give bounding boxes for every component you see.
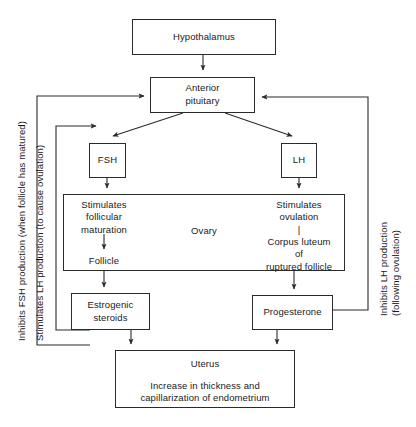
node-uterus-description: Increase in thickness and capillarizatio… — [120, 380, 290, 405]
ovary-ovulation-text: Stimulates ovulation | Corpus luteum of … — [255, 199, 343, 273]
node-lh-label: LH — [293, 154, 305, 167]
flowchart-canvas: Hypothalamus Anterior pituitary FSH LH S… — [0, 0, 416, 427]
ovary-follicular-maturation-text: Stimulates follicular maturation — [66, 199, 142, 236]
node-fsh[interactable]: FSH — [89, 143, 126, 178]
label-stimulates-lh-production: Stimulates LH production (to cause ovula… — [34, 145, 46, 341]
node-progesterone[interactable]: Progesterone — [252, 295, 333, 330]
node-estrogenic-steroids-label: Estrogenic steroids — [88, 299, 134, 325]
node-uterus-title: Uterus — [120, 358, 290, 370]
node-progesterone-label: Progesterone — [263, 306, 321, 319]
arrow-pituitary-to-lh — [225, 113, 292, 136]
label-inhibits-lh-production: Inhibits LH production (following ovulat… — [378, 222, 403, 316]
ovary-follicle-text: Follicle — [66, 255, 142, 267]
arrow-pituitary-to-fsh — [113, 113, 183, 136]
ovary-center-label: Ovary — [168, 225, 240, 237]
node-hypothalamus[interactable]: Hypothalamus — [132, 19, 276, 55]
node-estrogenic-steroids[interactable]: Estrogenic steroids — [71, 293, 150, 330]
node-anterior-pituitary-label: Anterior pituitary — [185, 82, 219, 108]
node-lh[interactable]: LH — [281, 143, 317, 178]
label-inhibits-fsh-production: Inhibits FSH production (when follicle h… — [16, 121, 28, 341]
node-hypothalamus-label: Hypothalamus — [173, 31, 235, 44]
node-fsh-label: FSH — [98, 154, 117, 167]
node-anterior-pituitary[interactable]: Anterior pituitary — [150, 77, 255, 113]
